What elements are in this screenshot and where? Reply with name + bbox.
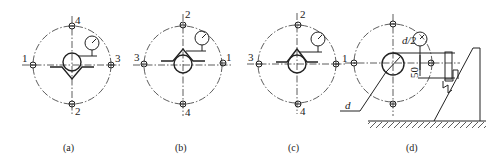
hole-marker-right <box>428 60 434 66</box>
caption-b: (b) <box>175 142 187 154</box>
diameter-line <box>386 56 401 72</box>
diagram-canvas: 4 2 1 3 (a) 2 4 3 1 (b) <box>0 0 502 167</box>
label-top: 4 <box>75 14 81 26</box>
hole-marker-left <box>256 61 262 67</box>
diameter-leader <box>360 72 386 111</box>
panel-c: 2 4 3 1 (c) <box>247 8 348 154</box>
panel-a: 4 2 1 3 (a) <box>22 14 122 154</box>
label-bottom: 2 <box>75 105 81 117</box>
hole-marker-top <box>295 22 301 28</box>
panel-d: d d/2 50 (d) <box>340 14 486 154</box>
label-diameter: d <box>345 99 351 111</box>
label-left: 3 <box>248 51 254 63</box>
caption-d: (d) <box>406 142 418 154</box>
label-right: 1 <box>342 52 348 64</box>
angle-bracket <box>434 48 480 121</box>
hole-marker-left <box>30 62 36 68</box>
hole-marker-left <box>351 60 357 66</box>
label-left: 1 <box>22 52 28 64</box>
panel-b: 2 4 3 1 (b) <box>133 8 233 154</box>
dial-gauge-icon <box>186 31 209 51</box>
label-half-diameter: d/2 <box>402 34 417 46</box>
angle-plate <box>445 52 452 79</box>
label-bottom: 4 <box>300 105 306 117</box>
dial-gauge-icon <box>78 36 99 56</box>
hole-marker-top <box>390 21 396 27</box>
label-right: 1 <box>226 51 232 63</box>
label-offset: 50 <box>408 67 420 79</box>
caption-a: (a) <box>63 142 74 154</box>
label-right: 3 <box>115 52 121 64</box>
label-bottom: 4 <box>185 106 191 118</box>
label-left: 3 <box>134 51 140 63</box>
dial-gauge-icon <box>299 32 325 52</box>
fixture-step <box>443 81 452 93</box>
label-top: 2 <box>185 8 191 20</box>
ground-hatch <box>368 122 486 128</box>
label-top: 2 <box>300 8 306 20</box>
caption-c: (c) <box>288 142 299 154</box>
